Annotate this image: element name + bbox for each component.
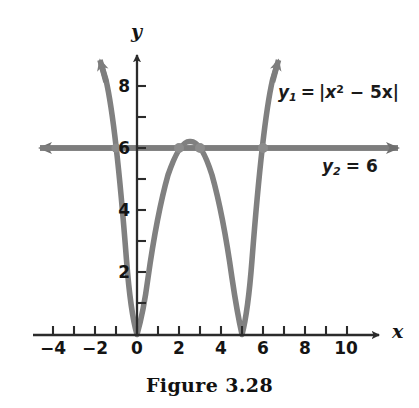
x-tick-label--4: −4 <box>40 340 66 357</box>
figure-caption: Figure 3.28 <box>0 374 419 396</box>
curve-label-y1-expr-open: |x <box>319 82 336 102</box>
y-tick-label-8: 8 <box>112 78 130 95</box>
x-tick-label-6: 6 <box>253 340 273 357</box>
x-axis-label: x <box>392 322 403 341</box>
x-tick-label-2: 2 <box>169 340 189 357</box>
figure-container: −4 −2 0 2 4 6 8 10 2 4 6 8 y x y1=|x2 − … <box>0 0 419 408</box>
curve-label-y1-exponent: 2 <box>336 83 344 96</box>
curve-label-y2-var: y <box>322 156 333 176</box>
intersection-point <box>258 143 268 153</box>
y-tick-label-6: 6 <box>112 140 130 157</box>
curve-label-y1-eq: = <box>301 82 315 102</box>
x-axis-ticks <box>53 326 347 335</box>
x-tick-label--2: −2 <box>82 340 108 357</box>
x-tick-label-0: 0 <box>127 340 147 357</box>
curve-label-y1-var: y <box>278 82 289 102</box>
curve-label-y2: y2= 6 <box>322 158 378 177</box>
curve-label-y1: y1=|x2 − 5x| <box>278 84 399 103</box>
curve-label-y2-eq: = 6 <box>346 156 378 176</box>
intersection-point <box>174 143 184 153</box>
curve-label-y2-sub: 2 <box>333 165 341 178</box>
curve-label-y1-sub: 1 <box>289 91 297 104</box>
x-tick-label-8: 8 <box>295 340 315 357</box>
intersection-point <box>195 143 205 153</box>
x-tick-label-4: 4 <box>211 340 231 357</box>
curve-y1-absolute-value <box>100 60 279 335</box>
y-tick-label-2: 2 <box>112 264 130 281</box>
curve-label-y1-expr-rest: − 5x| <box>344 82 399 102</box>
y-tick-label-4: 4 <box>112 202 130 219</box>
y-axis-ticks <box>137 86 146 303</box>
x-tick-label-10: 10 <box>332 340 360 357</box>
y-axis-label: y <box>131 22 142 41</box>
x-axis <box>33 326 379 335</box>
